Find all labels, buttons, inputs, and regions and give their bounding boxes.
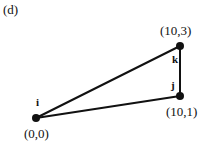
node-j-label: j: [171, 80, 175, 91]
node-j: [176, 92, 184, 100]
node-k-coord: (10,3): [160, 24, 191, 37]
node-k-label: k: [172, 54, 178, 65]
node-i-label: i: [36, 97, 39, 108]
node-j-coord: (10,1): [166, 105, 197, 118]
node-i: [32, 114, 40, 122]
node-i-coord: (0,0): [24, 127, 49, 140]
node-k: [176, 42, 184, 50]
